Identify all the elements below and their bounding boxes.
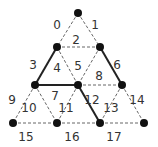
node-n8 — [96, 119, 104, 127]
edge-label-16: 16 — [64, 130, 79, 144]
edge-label-15: 15 — [18, 130, 33, 144]
triangular-lattice-diagram: 01234567891011121314151617 — [0, 0, 158, 147]
node-n1 — [53, 43, 61, 51]
node-n9 — [140, 119, 148, 127]
edge-label-11: 11 — [58, 101, 73, 115]
edge-label-9: 9 — [8, 93, 16, 107]
edge-label-10: 10 — [21, 101, 36, 115]
edge-label-17: 17 — [106, 130, 121, 144]
edge-label-13: 13 — [103, 101, 118, 115]
labels-layer: 01234567891011121314151617 — [8, 18, 144, 144]
edge-label-2: 2 — [72, 33, 80, 47]
node-n7 — [53, 119, 61, 127]
node-n3 — [31, 81, 39, 89]
edge-label-0: 0 — [53, 18, 61, 32]
edge-label-4: 4 — [53, 61, 61, 75]
edge-label-1: 1 — [91, 18, 99, 32]
edge-label-14: 14 — [129, 93, 144, 107]
edge-label-3: 3 — [29, 58, 37, 72]
node-n5 — [118, 81, 126, 89]
edge-label-6: 6 — [113, 58, 121, 72]
node-n0 — [74, 9, 82, 17]
edge-label-8: 8 — [95, 69, 103, 83]
node-n4 — [74, 81, 82, 89]
node-n6 — [9, 119, 17, 127]
edge-label-12: 12 — [84, 93, 99, 107]
node-n2 — [96, 43, 104, 51]
edge-label-5: 5 — [74, 59, 82, 73]
